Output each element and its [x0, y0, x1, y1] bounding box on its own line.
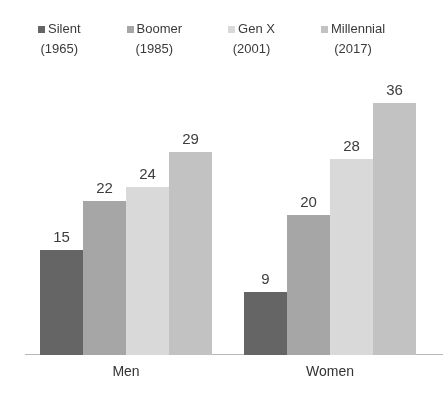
legend-year: (2001)	[228, 40, 275, 59]
bar: 28	[330, 159, 373, 355]
bar-value-label: 24	[126, 165, 169, 182]
bar-value-label: 22	[83, 179, 126, 196]
legend-item: Millennial(2017)	[321, 20, 385, 59]
legend-marker-icon	[127, 26, 134, 33]
bar-groups: 15222429Men9202836Women	[40, 103, 416, 400]
legend-year: (2017)	[321, 40, 385, 59]
legend-item: Silent(1965)	[38, 20, 81, 59]
legend-label: Silent	[48, 20, 81, 39]
legend-year: (1985)	[127, 40, 183, 59]
legend-label: Gen X	[238, 20, 275, 39]
bar-value-label: 36	[373, 81, 416, 98]
legend-year: (1965)	[38, 40, 81, 59]
legend-label: Millennial	[331, 20, 385, 39]
bar-group: 9202836Women	[244, 103, 416, 400]
bar-group: 15222429Men	[40, 152, 212, 400]
bar: 29	[169, 152, 212, 355]
legend-marker-icon	[321, 26, 328, 33]
legend: Silent(1965)Boomer(1985)Gen X(2001)Mille…	[38, 20, 443, 59]
bar: 24	[126, 187, 169, 355]
category-label: Men	[40, 355, 212, 400]
bar: 20	[287, 215, 330, 355]
legend-item: Boomer(1985)	[127, 20, 183, 59]
bar: 22	[83, 201, 126, 355]
bar: 9	[244, 292, 287, 355]
legend-marker-icon	[228, 26, 235, 33]
bar-value-label: 29	[169, 130, 212, 147]
bar-value-label: 20	[287, 193, 330, 210]
legend-marker-icon	[38, 26, 45, 33]
bar-value-label: 28	[330, 137, 373, 154]
category-label: Women	[244, 355, 416, 400]
bar-value-label: 9	[244, 270, 287, 287]
legend-item: Gen X(2001)	[228, 20, 275, 59]
legend-label: Boomer	[137, 20, 183, 39]
bar-chart: Silent(1965)Boomer(1985)Gen X(2001)Mille…	[0, 0, 447, 400]
bar: 36	[373, 103, 416, 355]
bar-value-label: 15	[40, 228, 83, 245]
bar: 15	[40, 250, 83, 355]
